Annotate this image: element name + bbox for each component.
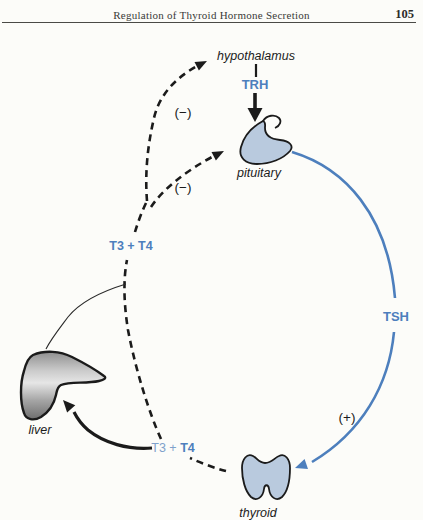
tsh-label: TSH [383,309,409,324]
t3t4-feedback-label: T3 + T4 [109,239,152,253]
hypothalamus-arrowhead-icon [195,61,208,71]
positive-sign-label: (+) [339,410,356,425]
feedback-dashed-from-thyroid [190,458,226,471]
feedback-dashed-trunk [124,260,161,439]
trh-arrowhead-icon [248,108,263,122]
tsh-arrowhead-icon [295,459,308,469]
liver-connector-line [46,284,126,349]
negative-sign-hypothalamus-label: (−) [175,105,192,120]
t3t4-peripheral-prefix: T3 + [151,441,180,455]
tsh-curve-lower-segment [312,332,394,462]
negative-sign-pituitary-label: (−) [175,180,192,195]
liver-shape-icon [21,352,105,420]
t3t4-peripheral-label: T3 + T4 [151,441,194,455]
thyroid-label: thyroid [239,506,278,520]
t3t4-to-liver-arrow [74,412,152,448]
t3t4-peripheral-bold: T4 [180,441,195,455]
hypothalamus-label: hypothalamus [217,49,295,63]
pituitary-shape-icon [240,121,291,164]
pituitary-arrowhead-icon [212,151,225,161]
feedback-loop-diagram: hypothalamus TRH pituitary TSH (+) thyro… [0,0,423,520]
trh-label: TRH [242,77,269,92]
pituitary-label: pituitary [236,166,282,180]
thyroid-shape-icon [242,455,290,499]
tsh-curve-upper-segment [292,152,395,298]
feedback-dashed-above-label [135,201,147,232]
liver-arrowhead-icon [63,400,75,413]
liver-label: liver [29,423,53,437]
